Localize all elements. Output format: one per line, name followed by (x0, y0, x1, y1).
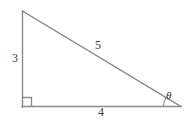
hypotenuse-line (23, 11, 182, 107)
angle-label-theta: θ (166, 90, 171, 101)
right-angle-icon (23, 98, 32, 107)
side-label-base: 4 (98, 106, 104, 118)
side-label-vertical: 3 (12, 52, 18, 64)
triangle-diagram: 3 5 4 θ (0, 0, 190, 121)
triangle-graphic (0, 0, 190, 121)
side-label-hypotenuse: 5 (95, 39, 101, 51)
